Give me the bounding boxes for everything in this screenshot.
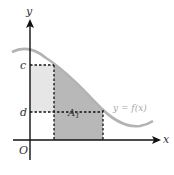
y-axis-label: y [25, 5, 33, 18]
d-level-label: d [20, 106, 27, 119]
x-axis-label: x [163, 133, 170, 146]
origin-label: O [19, 144, 28, 157]
c-level-label: c [20, 59, 26, 72]
region-a1-subscript: 1 [75, 112, 79, 120]
curve-label: y = f(x) [112, 103, 147, 113]
area-under-curve-diagram: y x O c d A1 y = f(x) [0, 0, 174, 175]
light-shaded-region [30, 65, 54, 112]
